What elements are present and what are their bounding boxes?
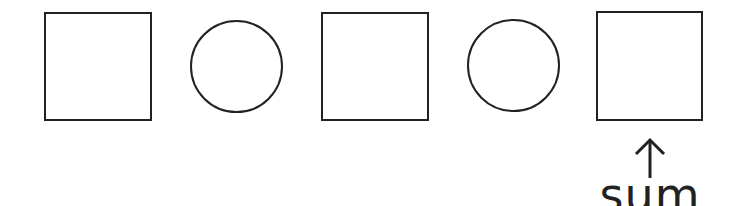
input-box-2 [321,12,429,121]
result-box [596,11,703,121]
operator-circle-2 [467,19,560,112]
operator-circle-1 [190,20,283,113]
sum-label: sum [590,172,710,206]
input-box-1 [44,12,152,121]
